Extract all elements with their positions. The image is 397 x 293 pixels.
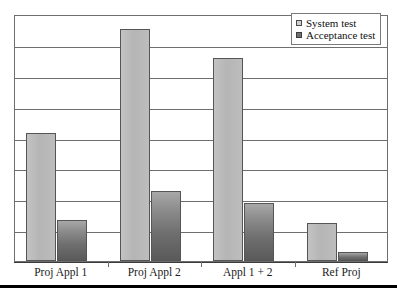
x-axis-label: Appl 1 + 2: [201, 266, 295, 278]
bar-group-container: [15, 16, 387, 261]
plot-area: [14, 15, 388, 262]
legend-swatch-icon-system-test: [296, 20, 302, 26]
x-axis-label: Proj Appl 2: [108, 266, 202, 278]
bar-system-test: [213, 58, 243, 261]
bar-group: [296, 16, 390, 261]
bar-system-test: [307, 223, 337, 261]
x-axis-label: Proj Appl 1: [14, 266, 108, 278]
legend-entry-system-test: System test: [296, 17, 375, 29]
bottom-horizontal-rule: [0, 285, 397, 288]
bar-group: [109, 16, 203, 261]
bar-system-test: [26, 133, 56, 261]
bar-acceptance-test: [57, 220, 87, 261]
bar-group: [15, 16, 109, 261]
x-axis-label-group: Proj Appl 1Proj Appl 2Appl 1 + 2Ref Proj: [14, 266, 388, 286]
bar-acceptance-test: [338, 252, 368, 261]
chart-legend: System test Acceptance test: [291, 13, 381, 45]
legend-entry-acceptance-test: Acceptance test: [296, 29, 375, 41]
bar-chart-figure: Proj Appl 1Proj Appl 2Appl 1 + 2Ref Proj…: [0, 0, 397, 293]
legend-label-acceptance-test: Acceptance test: [306, 29, 375, 41]
bar-acceptance-test: [151, 191, 181, 261]
legend-swatch-icon-acceptance-test: [296, 32, 302, 38]
legend-label-system-test: System test: [306, 17, 356, 29]
x-axis-label: Ref Proj: [295, 266, 389, 278]
bar-group: [202, 16, 296, 261]
bar-acceptance-test: [244, 203, 274, 261]
bar-system-test: [120, 29, 150, 261]
